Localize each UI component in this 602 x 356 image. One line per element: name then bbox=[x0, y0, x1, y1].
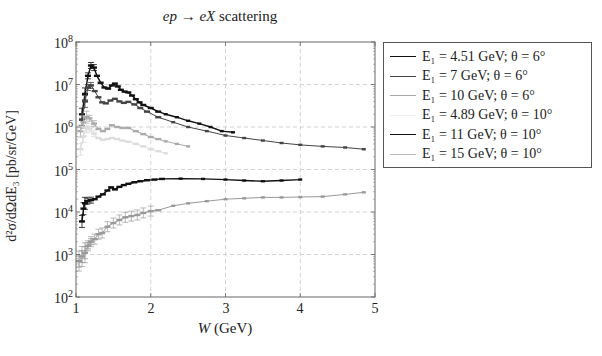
legend-entry: E₁ = 4.89 GeV; θ = 10° bbox=[384, 106, 591, 126]
x-tick-5: 5 bbox=[365, 301, 385, 317]
x-tick-1: 1 bbox=[66, 301, 86, 317]
data-series bbox=[76, 62, 366, 271]
legend-line-icon bbox=[390, 95, 416, 96]
legend-entry: E₁ = 7 GeV; θ = 6° bbox=[384, 67, 591, 87]
legend-label: E₁ = 11 GeV; θ = 10° bbox=[422, 127, 541, 143]
legend-label: E₁ = 15 GeV; θ = 10° bbox=[422, 146, 542, 162]
legend-entry: E₁ = 15 GeV; θ = 10° bbox=[384, 145, 591, 165]
x-tick-2: 2 bbox=[141, 301, 161, 317]
legend-label: E₁ = 7 GeV; θ = 6° bbox=[422, 68, 528, 84]
x-tick-3: 3 bbox=[216, 301, 236, 317]
legend-line-icon bbox=[390, 56, 416, 57]
y-tick-1e3: 103 bbox=[43, 246, 73, 265]
series-0 bbox=[79, 62, 235, 133]
legend-entry: E₁ = 4.51 GeV; θ = 6° bbox=[384, 47, 591, 67]
y-tick-1e6: 106 bbox=[43, 118, 73, 137]
x-axis-label: W (GeV) bbox=[175, 320, 275, 337]
y-tick-1e7: 107 bbox=[43, 76, 73, 95]
y-tick-1e8: 108 bbox=[43, 33, 73, 52]
legend-line-icon bbox=[390, 154, 416, 155]
legend-line-icon bbox=[390, 134, 416, 135]
legend-line-icon bbox=[390, 76, 416, 77]
x-axis-unit: (GeV) bbox=[210, 320, 252, 336]
grid-lines bbox=[76, 42, 375, 297]
legend-line-icon bbox=[390, 115, 416, 116]
legend-label: E₁ = 10 GeV; θ = 6° bbox=[422, 88, 535, 104]
legend: E₁ = 4.51 GeV; θ = 6° E₁ = 7 GeV; θ = 6°… bbox=[383, 42, 592, 168]
series-5 bbox=[76, 191, 366, 271]
y-tick-1e5: 105 bbox=[43, 161, 73, 180]
legend-label: E₁ = 4.89 GeV; θ = 10° bbox=[422, 107, 552, 123]
legend-label: E₁ = 4.51 GeV; θ = 6° bbox=[422, 49, 545, 65]
y-axis-label: d²σ/dΩdE₃ [pb/sr/GeV] bbox=[4, 56, 20, 296]
y-tick-1e4: 104 bbox=[43, 203, 73, 222]
x-axis-variable: W bbox=[198, 320, 211, 336]
x-tick-4: 4 bbox=[290, 301, 310, 317]
legend-entry: E₁ = 10 GeV; θ = 6° bbox=[384, 86, 591, 106]
series-4 bbox=[79, 177, 302, 227]
legend-entry: E₁ = 11 GeV; θ = 10° bbox=[384, 125, 591, 145]
